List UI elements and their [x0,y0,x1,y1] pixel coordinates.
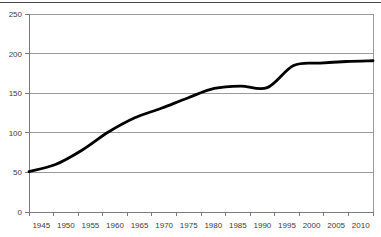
x-axis-tick-label: 1950 [57,221,75,230]
y-axis-tick-label: 200 [9,50,23,59]
x-axis-tick-label: 1955 [82,221,100,230]
x-axis-tick-label: 2010 [352,221,370,230]
y-axis-tick-labels: 050100150200250 [9,10,23,217]
x-axis-tick-label: 1945 [32,221,50,230]
plot-area-background [29,14,373,212]
x-axis-tick-label: 1975 [180,221,198,230]
y-axis-tick-label: 100 [9,129,23,138]
line-chart: 050100150200250 194519501955196019651970… [0,0,381,237]
x-axis-tick-label: 1985 [229,221,247,230]
x-axis-ticks [29,212,373,216]
x-axis-tick-labels: 1945195019551960196519701975198019851990… [32,221,370,230]
x-axis-tick-label: 1960 [106,221,124,230]
chart-canvas: 050100150200250 194519501955196019651970… [0,0,381,237]
y-axis-tick-label: 150 [9,89,23,98]
y-axis-tick-label: 250 [9,10,23,19]
x-axis-tick-label: 1990 [254,221,272,230]
y-axis-tick-label: 0 [18,208,23,217]
y-axis-ticks [25,14,29,212]
y-axis-tick-label: 50 [13,168,22,177]
x-axis-tick-label: 1995 [278,221,296,230]
x-axis-tick-label: 1970 [155,221,173,230]
x-axis-tick-label: 2005 [327,221,345,230]
x-axis-tick-label: 1965 [131,221,149,230]
x-axis-tick-label: 1980 [204,221,222,230]
x-axis-tick-label: 2000 [303,221,321,230]
